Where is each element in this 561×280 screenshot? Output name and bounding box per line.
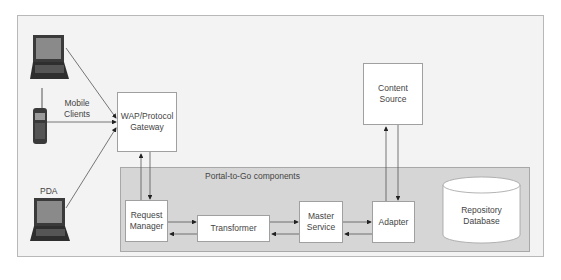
devices-layer bbox=[0, 0, 561, 280]
wap-protocol-gateway-box: WAP/Protocol Gateway bbox=[117, 92, 177, 152]
adapter-box: Adapter bbox=[372, 201, 415, 243]
content-source-box: Content Source bbox=[363, 63, 423, 125]
laptop-icon bbox=[30, 35, 69, 79]
request-manager-box: Request Manager bbox=[125, 200, 168, 242]
pda-laptop-icon bbox=[30, 198, 70, 241]
repository-database-label: Repository Database bbox=[443, 205, 520, 227]
mobile-phone-icon bbox=[33, 88, 47, 144]
pda-label: PDA bbox=[40, 186, 57, 197]
master-service-box: Master Service bbox=[299, 201, 343, 243]
connector-lines bbox=[47, 48, 398, 234]
mobile-clients-label: Mobile Clients bbox=[64, 98, 90, 120]
transformer-box: Transformer bbox=[197, 215, 270, 242]
